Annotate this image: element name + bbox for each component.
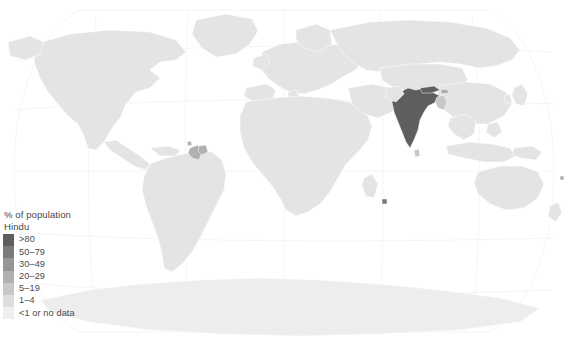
legend-title: % of population (4, 210, 123, 220)
legend-item: 5–19 (3, 283, 123, 295)
legend-item-label: 20–29 (19, 272, 45, 281)
legend-item-label: 30–49 (19, 260, 45, 269)
region-mauritius (382, 199, 387, 204)
legend-item-label: 1–4 (19, 296, 35, 305)
map-legend: % of population Hindu >80 50–79 30–49 20… (3, 210, 123, 319)
legend-items: >80 50–79 30–49 20–29 5–19 1–4 (3, 234, 123, 319)
legend-item: 30–49 (3, 258, 123, 270)
legend-swatch-icon (3, 283, 14, 295)
legend-swatch-icon (3, 258, 14, 270)
legend-item: <1 or no data (3, 307, 123, 319)
region-bhutan (440, 89, 449, 94)
legend-item-label: 50–79 (19, 248, 45, 257)
legend-subtitle: Hindu (4, 222, 123, 232)
legend-item: 20–29 (3, 271, 123, 283)
region-fiji (560, 176, 564, 180)
map-figure: % of population Hindu >80 50–79 30–49 20… (0, 0, 568, 343)
legend-swatch-icon (3, 246, 14, 258)
legend-swatch-icon (3, 307, 14, 319)
legend-item-label: <1 or no data (19, 309, 75, 318)
legend-swatch-icon (3, 234, 14, 246)
legend-item: 50–79 (3, 246, 123, 258)
region-trinidad (187, 141, 192, 146)
legend-item: 1–4 (3, 295, 123, 307)
legend-item: >80 (3, 234, 123, 246)
legend-item-label: 5–19 (19, 284, 40, 293)
legend-item-label: >80 (19, 235, 35, 244)
region-sri-lanka (414, 149, 420, 157)
legend-swatch-icon (3, 271, 14, 283)
legend-swatch-icon (3, 295, 14, 307)
